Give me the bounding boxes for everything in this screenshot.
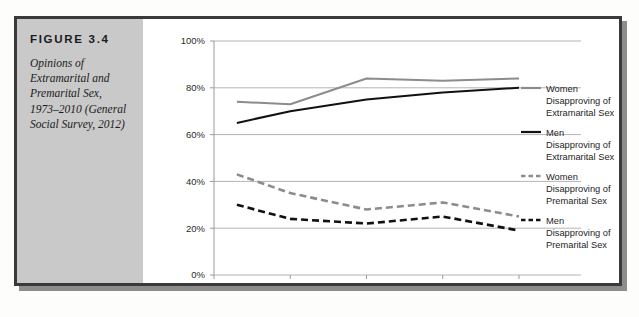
page-background: FIGURE 3.4 Opinions of Extramarital and … — [0, 0, 639, 317]
legend-label-1-line-2: Disapproving of — [546, 140, 611, 150]
y-axis-tick-labels: 0%20%40%60%80%100% — [181, 35, 206, 280]
figure-number-label: FIGURE 3.4 — [30, 33, 131, 45]
chart-tickmarks — [210, 41, 519, 279]
legend-label-0-line-3: Extramarital Sex — [546, 108, 615, 118]
chart-series-lines — [237, 78, 519, 230]
chart-gridlines — [214, 41, 581, 275]
legend-label-2-line-3: Premarital Sex — [546, 196, 607, 206]
chart-area: 0%20%40%60%80%100% 19701980199020002010 … — [143, 19, 619, 283]
y-tick-label-80: 80% — [186, 82, 206, 93]
legend-label-1-line-1: Men — [546, 128, 564, 138]
legend-label-3-line-1: Men — [546, 216, 564, 226]
figure-caption-text: Opinions of Extramarital and Premarital … — [30, 56, 131, 132]
legend-label-3-line-3: Premarital Sex — [546, 240, 607, 250]
figure-caption-panel: FIGURE 3.4 Opinions of Extramarital and … — [17, 19, 143, 283]
legend-label-2-line-1: Women — [546, 172, 578, 182]
series-line-2 — [237, 174, 519, 216]
chart-legend: WomenDisapproving ofExtramarital SexMenD… — [521, 84, 615, 250]
y-tick-label-60: 60% — [186, 129, 206, 140]
figure-container: FIGURE 3.4 Opinions of Extramarital and … — [14, 16, 622, 286]
line-chart: 0%20%40%60%80%100% 19701980199020002010 … — [143, 19, 619, 283]
legend-label-1-line-3: Extramarital Sex — [546, 152, 615, 162]
y-tick-label-20: 20% — [186, 223, 206, 234]
y-tick-label-0: 0% — [191, 269, 205, 280]
y-tick-label-40: 40% — [186, 176, 206, 187]
legend-label-0-line-2: Disapproving of — [546, 96, 611, 106]
legend-label-3-line-2: Disapproving of — [546, 228, 611, 238]
legend-label-2-line-2: Disapproving of — [546, 184, 611, 194]
legend-label-0-line-1: Women — [546, 84, 578, 94]
series-line-1 — [237, 88, 519, 123]
y-tick-label-100: 100% — [181, 35, 206, 46]
